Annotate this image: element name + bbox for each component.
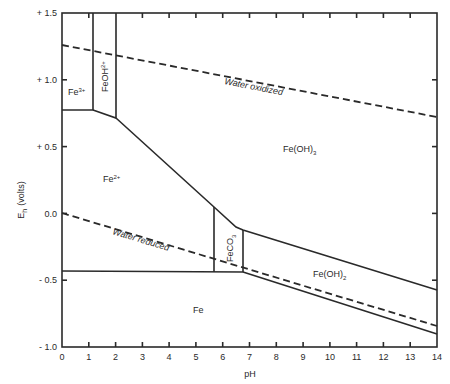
water-reduced-label: Water reduced bbox=[111, 226, 171, 253]
svg-text:- 0.5: - 0.5 bbox=[39, 275, 57, 285]
region-feoh3: Fe(OH)3 bbox=[283, 144, 317, 156]
region-fe2: Fe2+ bbox=[103, 174, 121, 184]
y-axis-ticks bbox=[62, 80, 437, 280]
svg-text:5: 5 bbox=[193, 352, 198, 362]
svg-text:3: 3 bbox=[140, 352, 145, 362]
plot-frame bbox=[62, 13, 437, 347]
svg-text:7: 7 bbox=[247, 352, 252, 362]
svg-text:0.0: 0.0 bbox=[44, 209, 57, 219]
svg-text:Water oxidized: Water oxidized bbox=[224, 76, 285, 97]
svg-text:10: 10 bbox=[325, 352, 335, 362]
region-feco3: FeCO3 bbox=[225, 234, 237, 262]
svg-text:9: 9 bbox=[301, 352, 306, 362]
svg-text:13: 13 bbox=[405, 352, 415, 362]
region-fe: Fe bbox=[193, 305, 204, 315]
pourbaix-diagram: 0 1 2 3 4 5 6 7 8 9 10 11 12 13 14 pH + … bbox=[0, 0, 450, 384]
svg-text:6: 6 bbox=[220, 352, 225, 362]
svg-text:Water reduced: Water reduced bbox=[111, 226, 171, 253]
svg-text:+ 1.5: + 1.5 bbox=[37, 8, 57, 18]
svg-text:+ 0.5: + 0.5 bbox=[37, 142, 57, 152]
svg-text:11: 11 bbox=[352, 352, 361, 362]
svg-text:- 1.0: - 1.0 bbox=[39, 342, 57, 352]
svg-text:1: 1 bbox=[86, 352, 91, 362]
svg-text:8: 8 bbox=[274, 352, 279, 362]
svg-text:+ 1.0: + 1.0 bbox=[37, 75, 57, 85]
region-fe3: Fe3+ bbox=[68, 87, 86, 97]
svg-text:4: 4 bbox=[167, 352, 172, 362]
x-tick-labels: 0 1 2 3 4 5 6 7 8 9 10 11 12 13 14 bbox=[59, 352, 442, 362]
water-oxidized-label: Water oxidized bbox=[224, 76, 285, 97]
region-feoh2: FeOH2+ bbox=[100, 61, 110, 92]
x-axis-label: pH bbox=[244, 369, 256, 379]
region-feoh2-solid: Fe(OH)2 bbox=[313, 269, 347, 281]
svg-text:2: 2 bbox=[113, 352, 118, 362]
svg-text:FeCO3: FeCO3 bbox=[225, 234, 237, 262]
svg-text:0: 0 bbox=[59, 352, 64, 362]
svg-text:12: 12 bbox=[378, 352, 388, 362]
svg-text:14: 14 bbox=[432, 352, 442, 362]
y-tick-labels: + 1.5 + 1.0 + 0.5 0.0 - 0.5 - 1.0 bbox=[37, 8, 57, 352]
svg-text:FeOH2+: FeOH2+ bbox=[100, 61, 110, 92]
y-axis-label: Eh(volts) bbox=[16, 181, 28, 218]
x-axis-ticks bbox=[89, 13, 410, 347]
svg-text:Eh(volts): Eh(volts) bbox=[16, 181, 28, 218]
